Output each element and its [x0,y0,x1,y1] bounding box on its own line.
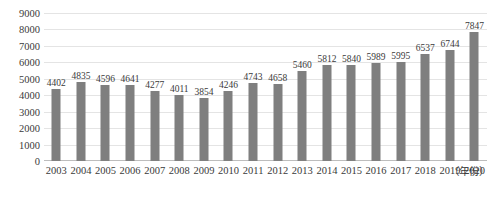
bar-value-label: 5989 [367,52,386,62]
x-axis-tick-label: 2014 [315,164,340,178]
x-axis-tick-label: 2012 [265,164,290,178]
bar-item: 4402 [44,13,69,161]
bar-value-label: 4743 [244,72,263,82]
x-axis-unit-label: （年份） [449,164,489,178]
bar [249,83,258,161]
bar-item: 4246 [216,13,241,161]
bar-item: 3854 [192,13,217,161]
bar-value-label: 4011 [170,84,189,94]
x-axis-tick-label: 2003 [44,164,69,178]
x-axis-tick-label: 2015 [339,164,364,178]
y-axis-tick-label: 5000 [0,75,40,85]
bar [445,50,454,161]
bar [322,65,331,161]
bar [470,32,479,161]
bar-item: 4835 [69,13,94,161]
y-axis-tick-label: 4000 [0,91,40,101]
bar-item: 4011 [167,13,192,161]
y-axis-tick-label: 6000 [0,58,40,68]
bar [101,85,110,161]
bar-value-label: 4658 [268,73,287,83]
bar [126,85,135,161]
bar [347,65,356,161]
bar-item: 4277 [142,13,167,161]
x-axis-tick-label: 2009 [192,164,217,178]
bar [372,63,381,162]
bar [175,95,184,161]
y-axis-tick-label: 1000 [0,141,40,151]
bar [224,91,233,161]
x-axis-tick-label: 2008 [167,164,192,178]
x-axis: 2003 2004 2005 2006 2007 2008 2009 2010 … [44,164,487,182]
x-axis-tick-label: 2005 [93,164,118,178]
y-axis-tick-label: 0 [0,157,40,167]
bar-item: 4641 [118,13,143,161]
x-axis-tick-label: 2011 [241,164,266,178]
y-axis-tick-label: 9000 [0,9,40,19]
bar [298,71,307,161]
bar-item: 5812 [315,13,340,161]
x-axis-tick-label: 2007 [142,164,167,178]
bar-item: 7847 [462,13,487,161]
bar-series: 4402 4835 4596 4641 4277 4011 [44,13,487,161]
bar [150,91,159,161]
x-axis-tick-label: 2013 [290,164,315,178]
bar [199,98,208,161]
y-axis-tick-label: 7000 [0,42,40,52]
bar-value-label: 4596 [96,74,115,84]
bar-item: 5995 [388,13,413,161]
plot-area: 4402 4835 4596 4641 4277 4011 [44,13,487,161]
bar-value-label: 3854 [194,87,213,97]
bar-value-label: 5460 [293,60,312,70]
bar-value-label: 4402 [47,78,66,88]
bar-item: 5460 [290,13,315,161]
bar-value-label: 5812 [317,54,336,64]
bar [396,62,405,161]
bar-value-label: 4277 [145,80,164,90]
bar-value-label: 4835 [71,71,90,81]
bar-item: 6744 [438,13,463,161]
bar-value-label: 5840 [342,54,361,64]
bar-value-label: 5995 [391,51,410,61]
bar-item: 5840 [339,13,364,161]
bar [273,84,282,161]
bar-item: 4743 [241,13,266,161]
y-axis-tick-label: 2000 [0,124,40,134]
bar-value-label: 4246 [219,80,238,90]
bar-chart: 9000 8000 7000 6000 5000 4000 3000 2000 … [0,0,497,197]
x-axis-tick-label: 2016 [364,164,389,178]
y-axis-tick-label: 3000 [0,108,40,118]
x-axis-tick-label: 2004 [69,164,94,178]
bar-value-label: 7847 [465,21,484,31]
bar-item: 5989 [364,13,389,161]
y-axis-tick-label: 8000 [0,25,40,35]
x-axis-tick-label: 2018 [413,164,438,178]
x-axis-tick-label: 2010 [216,164,241,178]
bar-item: 6537 [413,13,438,161]
x-axis-tick-label: 2017 [388,164,413,178]
bar [76,82,85,162]
bar-item: 4596 [93,13,118,161]
bar-value-label: 4641 [121,74,140,84]
bar-item: 4658 [265,13,290,161]
bar-value-label: 6744 [440,39,459,49]
x-axis-tick-label: 2006 [118,164,143,178]
bar-value-label: 6537 [416,43,435,53]
bar [52,89,61,161]
bar [421,54,430,162]
